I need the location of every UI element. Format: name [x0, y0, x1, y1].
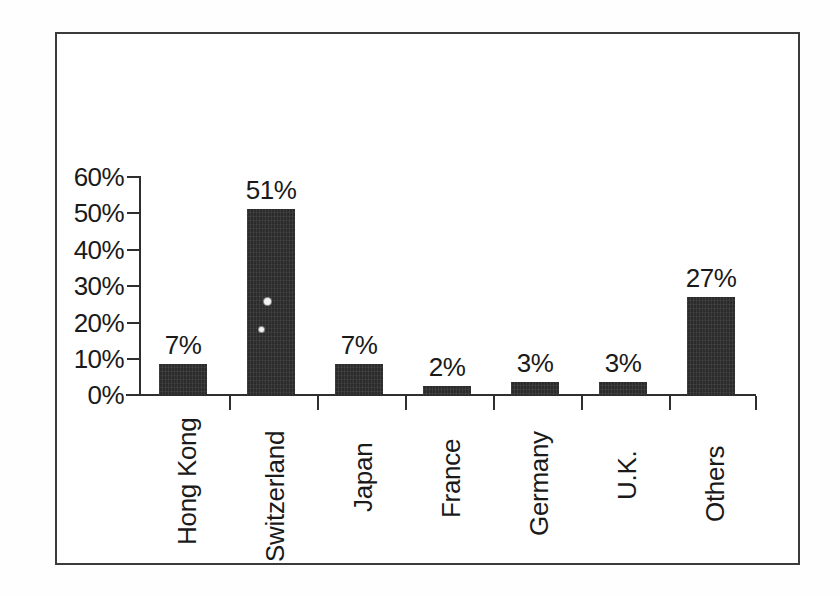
bar-france — [423, 386, 471, 395]
bar-chart-plot-area: 60% 50% 40% 30% 20% 10% 0% 7% 51% 7% 2% — [0, 0, 840, 596]
bar-uk — [599, 382, 647, 395]
y-tick-mark-20 — [127, 322, 140, 324]
x-tick-mark-5 — [581, 396, 583, 410]
y-axis-label-40: 40% — [0, 235, 124, 266]
bar-value-france: 2% — [429, 352, 466, 383]
scanned-figure-page: 60% 50% 40% 30% 20% 10% 0% 7% 51% 7% 2% — [0, 0, 840, 596]
x-tick-mark-4 — [493, 396, 495, 410]
y-tick-mark-40 — [127, 249, 140, 251]
bar-value-japan: 7% — [341, 330, 378, 361]
bar-others — [687, 297, 735, 395]
bar-value-germany: 3% — [517, 348, 554, 379]
x-tick-mark-7 — [755, 396, 757, 410]
x-axis-category-label-france: France — [436, 439, 467, 518]
y-axis-label-20: 20% — [0, 308, 124, 339]
y-tick-mark-10 — [127, 358, 140, 360]
x-axis-category-label-germany: Germany — [524, 431, 555, 536]
x-axis-category-label-uk: U.K. — [612, 451, 643, 500]
bar-germany — [511, 382, 559, 395]
x-axis-category-label-switzerland: Switzerland — [260, 431, 291, 562]
y-axis-label-50: 50% — [0, 198, 124, 229]
y-tick-mark-0 — [127, 394, 140, 396]
x-tick-mark-2 — [317, 396, 319, 410]
bar-value-switzerland: 51% — [246, 175, 297, 206]
bar-hong-kong — [159, 364, 207, 395]
x-axis-category-label-others: Others — [700, 446, 731, 522]
x-tick-mark-6 — [669, 396, 671, 410]
y-tick-mark-50 — [127, 212, 140, 214]
y-axis-label-60: 60% — [0, 162, 124, 193]
y-axis-label-30: 30% — [0, 271, 124, 302]
x-tick-mark-3 — [405, 396, 407, 410]
bar-switzerland — [247, 209, 295, 395]
y-axis-label-0: 0% — [0, 380, 124, 411]
scan-speck-icon — [264, 298, 271, 305]
scan-speck-icon — [259, 327, 264, 332]
bar-japan — [335, 364, 383, 395]
y-axis-label-10: 10% — [0, 344, 124, 375]
x-axis-category-label-japan: Japan — [348, 443, 379, 512]
x-tick-mark-1 — [229, 396, 231, 410]
y-tick-mark-30 — [127, 285, 140, 287]
bar-value-uk: 3% — [605, 348, 642, 379]
y-tick-mark-60 — [127, 176, 140, 178]
bar-value-others: 27% — [686, 263, 737, 294]
bar-value-hong-kong: 7% — [165, 330, 202, 361]
x-axis-category-label-hong-kong: Hong Kong — [172, 418, 203, 545]
